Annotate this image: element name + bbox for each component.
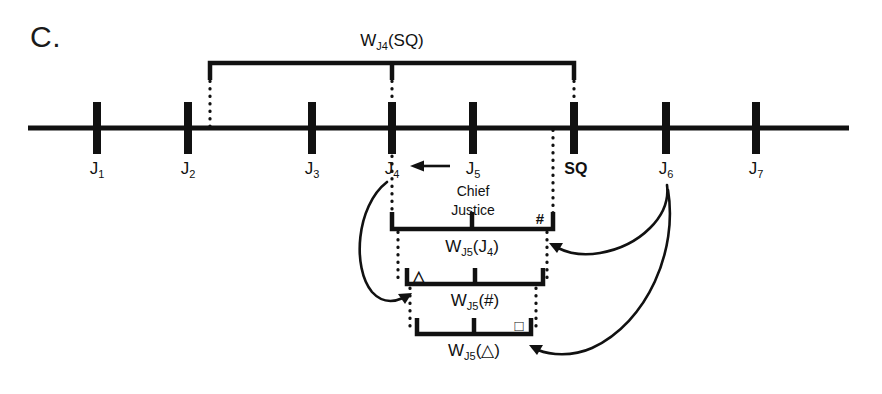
bracket-label-w-j4-sq-arg: (SQ) [388, 31, 424, 50]
axis-tick-j6 [662, 102, 670, 154]
policy-space-axis [28, 102, 849, 154]
axis-label-j4: J4 [385, 160, 400, 180]
bracket-label-w-j5-hash: WJ5(#) [451, 292, 499, 312]
axis-label-j7: J7 [749, 160, 764, 180]
axis-label-j6: J6 [659, 160, 674, 180]
bracket-label-w-j4-sq-sub: J4 [376, 40, 388, 52]
figure-panel-c: C. WJ4(SQ) J1 J2 J3 J4 J5 SQ J6 J7 Chief… [0, 0, 882, 394]
hash-glyph-bracket-w-j5-j4: # [536, 211, 544, 226]
bracket-label-w-j4-sq-w: W [360, 31, 376, 50]
bracket-label-w-j5-j4: WJ5(J4) [445, 238, 499, 258]
axis-tick-sq [570, 102, 578, 154]
axis-tick-j3 [308, 102, 316, 154]
square-glyph-bracket-w-j5-triangle: □ [514, 318, 523, 333]
axis-label-j3: J3 [305, 160, 320, 180]
axis-label-j1: J1 [90, 160, 105, 180]
bracket-label-w-j4-sq: WJ4(SQ) [360, 32, 424, 52]
curved-arrow-left-loop [360, 182, 412, 304]
curved-arrow-j6-to-square [529, 190, 670, 355]
axis-tick-j5 [469, 102, 477, 154]
axis-tick-j1 [93, 102, 101, 154]
curved-arrow-j6-to-hash [549, 185, 667, 254]
chief-justice-note-line2: Justice [451, 203, 495, 217]
chief-justice-note-line1: Chief [457, 184, 490, 198]
axis-label-j5: J5 [466, 160, 481, 180]
bracket-w-j5-hash [407, 268, 543, 284]
axis-tick-j7 [752, 102, 760, 154]
bracket-label-w-j5-triangle: WJ5(△) [448, 342, 500, 362]
bracket-w-j4-sq [210, 63, 574, 80]
axis-tick-j2 [184, 102, 192, 154]
axis-label-j2: J2 [181, 160, 196, 180]
axis-label-sq: SQ [564, 161, 588, 177]
figure-vector-layer [0, 0, 882, 394]
j5-to-j4-median-arrow [410, 161, 450, 172]
axis-tick-j4 [388, 102, 396, 154]
triangle-glyph-bracket-w-j5-hash: △ [413, 268, 425, 283]
panel-letter: C. [30, 22, 61, 52]
